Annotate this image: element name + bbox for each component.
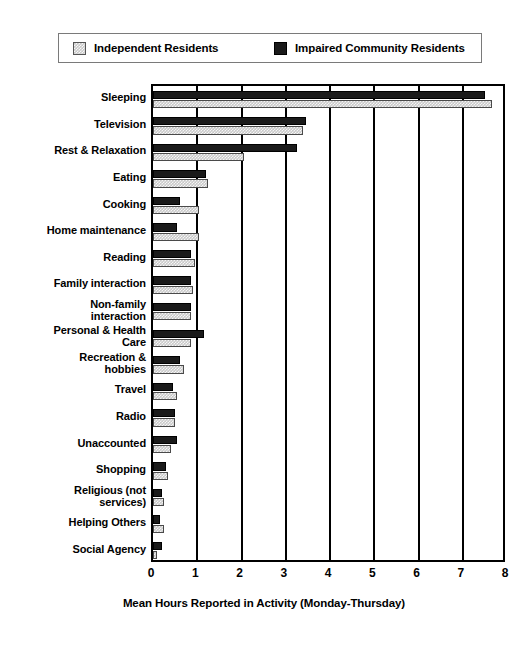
- bar-impaired-community-residents: [153, 170, 206, 178]
- y-axis-label: Family interaction: [0, 277, 146, 289]
- bar-independent-residents: [153, 126, 303, 134]
- y-axis-label: Travel: [0, 383, 146, 395]
- y-axis-label: Personal & Health Care: [0, 324, 146, 348]
- bar-independent-residents: [153, 365, 184, 373]
- y-axis-label: Reading: [0, 251, 146, 263]
- bar-group: [153, 325, 503, 352]
- y-axis-label: Home maintenance: [0, 224, 146, 236]
- bar-independent-residents: [153, 525, 164, 533]
- x-tick-7: 7: [457, 566, 464, 580]
- bar-independent-residents: [153, 418, 175, 426]
- bar-impaired-community-residents: [153, 250, 191, 258]
- x-tick-4: 4: [325, 566, 332, 580]
- bar-independent-residents: [153, 259, 195, 267]
- chart-figure: Independent Residents Impaired Community…: [0, 0, 528, 647]
- bar-impaired-community-residents: [153, 462, 166, 470]
- bar-independent-residents: [153, 498, 164, 506]
- y-axis-label: Cooking: [0, 198, 146, 210]
- bar-impaired-community-residents: [153, 223, 177, 231]
- bar-impaired-community-residents: [153, 436, 177, 444]
- y-axis-label: Social Agency: [0, 543, 146, 555]
- x-tick-1: 1: [192, 566, 199, 580]
- y-axis-category-labels: SleepingTelevisionRest & RelaxationEatin…: [0, 84, 146, 562]
- x-axis-title: Mean Hours Reported in Activity (Monday-…: [0, 597, 528, 609]
- bar-group: [153, 458, 503, 485]
- bar-group: [153, 378, 503, 405]
- bar-group: [153, 405, 503, 432]
- chart-legend: Independent Residents Impaired Community…: [58, 33, 482, 63]
- legend-entry-impaired-community-residents: Impaired Community Residents: [274, 34, 465, 62]
- y-axis-label: Radio: [0, 410, 146, 422]
- bar-group: [153, 166, 503, 193]
- bar-impaired-community-residents: [153, 489, 162, 497]
- bar-group: [153, 272, 503, 299]
- bar-impaired-community-residents: [153, 515, 160, 523]
- bar-group: [153, 484, 503, 511]
- y-axis-label: Shopping: [0, 463, 146, 475]
- bar-independent-residents: [153, 233, 199, 241]
- bar-group: [153, 113, 503, 140]
- bar-group: [153, 86, 503, 113]
- y-axis-label: Eating: [0, 171, 146, 183]
- y-axis-label: Unaccounted: [0, 437, 146, 449]
- x-tick-2: 2: [236, 566, 243, 580]
- legend-swatch-dark-solid-icon: [274, 42, 287, 55]
- bar-independent-residents: [153, 472, 168, 480]
- plot-area: [151, 84, 505, 562]
- bar-impaired-community-residents: [153, 197, 180, 205]
- y-axis-label: Recreation & hobbies: [0, 351, 146, 375]
- bar-group: [153, 352, 503, 379]
- bar-independent-residents: [153, 100, 492, 108]
- bar-group: [153, 245, 503, 272]
- bar-group: [153, 219, 503, 246]
- legend-entry-independent-residents: Independent Residents: [73, 34, 218, 62]
- x-tick-8: 8: [502, 566, 509, 580]
- bar-independent-residents: [153, 153, 244, 161]
- bar-impaired-community-residents: [153, 542, 162, 550]
- bar-independent-residents: [153, 445, 171, 453]
- x-axis-tick-labels: 012345678: [151, 566, 505, 584]
- bar-independent-residents: [153, 206, 199, 214]
- y-axis-label: Religious (not services): [0, 484, 146, 508]
- bar-impaired-community-residents: [153, 117, 306, 125]
- bar-impaired-community-residents: [153, 91, 485, 99]
- bar-group: [153, 511, 503, 538]
- bar-group: [153, 192, 503, 219]
- bar-independent-residents: [153, 286, 193, 294]
- y-axis-label: Helping Others: [0, 516, 146, 528]
- y-axis-label: Television: [0, 118, 146, 130]
- bar-group: [153, 139, 503, 166]
- bar-independent-residents: [153, 179, 208, 187]
- bar-group: [153, 298, 503, 325]
- bar-group: [153, 537, 503, 564]
- x-tick-3: 3: [280, 566, 287, 580]
- bar-impaired-community-residents: [153, 276, 191, 284]
- bar-impaired-community-residents: [153, 356, 180, 364]
- bar-impaired-community-residents: [153, 383, 173, 391]
- x-tick-5: 5: [369, 566, 376, 580]
- bar-independent-residents: [153, 339, 191, 347]
- y-axis-label: Non-family interaction: [0, 298, 146, 322]
- bars-layer: [153, 86, 503, 560]
- x-tick-6: 6: [413, 566, 420, 580]
- legend-label-impaired-community-residents: Impaired Community Residents: [295, 42, 465, 54]
- bar-impaired-community-residents: [153, 330, 204, 338]
- bar-independent-residents: [153, 392, 177, 400]
- x-tick-0: 0: [148, 566, 155, 580]
- bar-impaired-community-residents: [153, 303, 191, 311]
- legend-label-independent-residents: Independent Residents: [94, 42, 218, 54]
- bar-independent-residents: [153, 312, 191, 320]
- bar-group: [153, 431, 503, 458]
- y-axis-label: Sleeping: [0, 91, 146, 103]
- y-axis-label: Rest & Relaxation: [0, 144, 146, 156]
- bar-impaired-community-residents: [153, 409, 175, 417]
- legend-swatch-light-hatched-icon: [73, 42, 86, 55]
- bar-independent-residents: [153, 551, 157, 559]
- bar-impaired-community-residents: [153, 144, 297, 152]
